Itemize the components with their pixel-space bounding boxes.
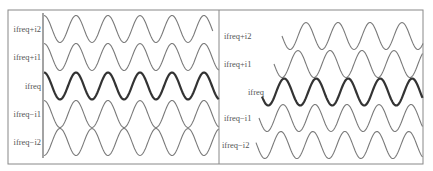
- row-label: ifreq−i2: [222, 140, 249, 150]
- row-label: ifreq−i1: [224, 113, 251, 123]
- wave-diagram: ifreq+i2ifreq+i1ifreqifreq−i1ifreq−i2 if…: [0, 0, 433, 171]
- figure-canvas: ifreq+i2ifreq+i1ifreqifreq−i1ifreq−i2 if…: [0, 0, 433, 171]
- panel-right: ifreq+i2ifreq+i1ifreqifreq−i1ifreq−i2: [222, 23, 423, 159]
- row-label: ifreq+i1: [14, 52, 41, 62]
- wave: [44, 16, 213, 43]
- row-label: ifreq−i1: [14, 109, 41, 119]
- row-label: ifreq+i2: [224, 31, 251, 41]
- wave: [44, 44, 219, 71]
- wave: [256, 132, 423, 159]
- wave: [274, 51, 423, 78]
- center-wave: [44, 73, 219, 100]
- wave: [44, 129, 219, 156]
- panel-left: ifreq+i2ifreq+i1ifreqifreq−i1ifreq−i2: [14, 13, 219, 158]
- center-wave: [262, 79, 423, 106]
- row-label: ifreq: [248, 87, 265, 97]
- figure-frame: [8, 10, 423, 164]
- row-label: ifreq+i1: [224, 59, 251, 69]
- wave: [259, 105, 423, 132]
- row-label: ifreq+i2: [14, 24, 41, 34]
- wave: [282, 23, 423, 50]
- row-label: ifreq: [25, 81, 42, 91]
- row-label: ifreq−i2: [14, 137, 41, 147]
- wave: [44, 101, 219, 128]
